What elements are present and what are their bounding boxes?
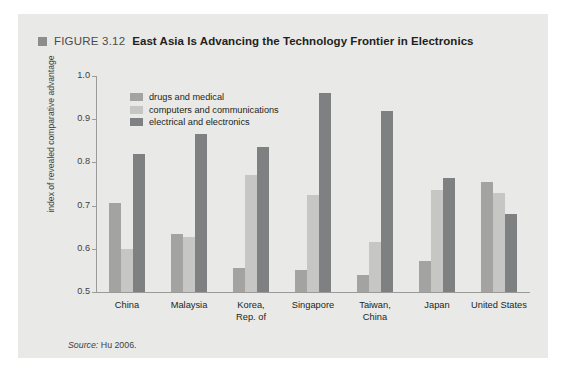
legend-label: electrical and electronics (149, 117, 250, 127)
bar (183, 237, 195, 292)
bar (171, 234, 183, 292)
bar (233, 268, 245, 292)
legend-item: electrical and electronics (130, 117, 279, 127)
chart-plot-area: index of revealed comparative advantage … (18, 14, 548, 358)
bar (419, 261, 431, 292)
legend-label: drugs and medical (149, 92, 224, 102)
bar (295, 270, 307, 292)
y-tick-label: 1.0 (64, 70, 90, 80)
figure-panel: FIGURE 3.12 East Asia Is Advancing the T… (18, 14, 548, 358)
bar (493, 193, 505, 292)
bar (121, 249, 133, 292)
bar (431, 190, 443, 292)
bar (109, 203, 121, 292)
bar (481, 182, 493, 292)
legend-swatch-icon (130, 93, 143, 101)
bar (369, 242, 381, 292)
y-tick-label: 0.5 (64, 286, 90, 296)
y-tick-mark (92, 292, 96, 293)
bar (357, 275, 369, 292)
bar (505, 214, 517, 292)
y-tick-label: 0.9 (64, 113, 90, 123)
bar (257, 147, 269, 292)
y-tick-label: 0.7 (64, 200, 90, 210)
legend-item: drugs and medical (130, 92, 279, 102)
legend-swatch-icon (130, 106, 143, 114)
x-category-label: United States (454, 300, 544, 312)
bar (133, 154, 145, 292)
legend-item: computers and communications (130, 105, 279, 115)
legend-label: computers and communications (149, 105, 279, 115)
source-value: Hu 2006. (98, 340, 136, 350)
y-tick-label: 0.6 (64, 243, 90, 253)
bar (443, 178, 455, 292)
bar (319, 93, 331, 292)
y-tick-label: 0.8 (64, 156, 90, 166)
legend-swatch-icon (130, 118, 143, 126)
x-axis-line (96, 292, 530, 293)
chart-legend: drugs and medicalcomputers and communica… (130, 92, 279, 130)
bar (245, 175, 257, 292)
bar (307, 195, 319, 292)
source-label: Source: (68, 340, 98, 350)
bar (381, 111, 393, 292)
bar (195, 134, 207, 292)
y-axis-label: index of revealed comparative advantage (46, 39, 56, 229)
source-note: Source: Hu 2006. (68, 340, 136, 350)
